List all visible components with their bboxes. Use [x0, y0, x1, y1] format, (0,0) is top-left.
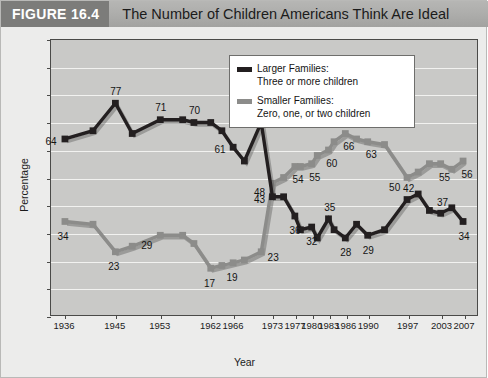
x-tick-label: 1973 [262, 320, 283, 331]
data-point-label: 29 [363, 244, 374, 255]
data-point-label: 23 [108, 261, 119, 272]
y-tick-mark [47, 317, 51, 318]
data-point-marker [207, 265, 214, 272]
data-point-marker [179, 116, 186, 123]
data-point-label: 70 [189, 105, 200, 116]
data-point-marker [342, 235, 349, 242]
x-tick-mark [442, 315, 443, 319]
data-point-label: 35 [324, 202, 335, 213]
data-point-marker [191, 240, 198, 247]
data-point-label: 77 [110, 85, 121, 96]
data-point-label: 50 [389, 181, 400, 192]
data-point-marker [269, 193, 276, 200]
data-point-label: 28 [340, 247, 351, 258]
data-point-marker [314, 152, 321, 159]
data-point-marker [90, 221, 97, 228]
figure-header: FIGURE 16.4 The Number of Children Ameri… [1, 1, 488, 27]
figure-number-tag: FIGURE 16.4 [1, 1, 109, 27]
data-point-marker [112, 100, 119, 107]
data-point-marker [62, 136, 69, 143]
y-axis-label: Percentage [18, 140, 30, 230]
data-point-label: 60 [326, 157, 337, 168]
data-point-marker [437, 160, 444, 167]
x-tick-mark [313, 315, 314, 319]
data-point-marker [364, 138, 371, 145]
data-point-marker [62, 218, 69, 225]
x-tick-mark [409, 315, 410, 319]
x-tick-label: 2007 [453, 320, 474, 331]
data-point-label: 34 [57, 230, 68, 241]
x-tick-mark [234, 315, 235, 319]
x-tick-label: 2003 [431, 320, 452, 331]
x-tick-mark [273, 315, 274, 319]
data-point-label: 66 [343, 141, 354, 152]
data-point-marker [325, 147, 332, 154]
data-point-marker [129, 130, 136, 137]
data-point-label: 55 [439, 171, 450, 182]
data-point-label: 36 [289, 225, 300, 236]
data-point-marker [404, 174, 411, 181]
x-tick-label: 1936 [53, 320, 74, 331]
x-tick-label: 1945 [104, 320, 125, 331]
data-point-label: 56 [461, 168, 472, 179]
data-point-label: 61 [214, 144, 225, 155]
legend-item-smaller-families: Smaller Families: Zero, one, or two chil… [237, 95, 406, 120]
chart-body: Percentage 0102030405060708090100 647771… [1, 27, 488, 378]
data-point-marker [191, 119, 198, 126]
x-tick-mark [211, 315, 212, 319]
data-point-label: 29 [141, 239, 152, 250]
data-point-marker [230, 259, 237, 266]
data-point-marker [325, 215, 332, 222]
legend-sublabel-larger-families: Three or more children [257, 76, 358, 89]
data-point-marker [258, 248, 265, 255]
data-point-marker [112, 248, 119, 255]
data-point-marker [342, 130, 349, 137]
data-point-marker [207, 119, 214, 126]
data-point-label: 71 [155, 102, 166, 113]
data-point-marker [219, 262, 226, 269]
data-point-label: 63 [366, 149, 377, 160]
x-tick-mark [369, 315, 370, 319]
data-point-label: 55 [309, 171, 320, 182]
data-point-label: 48 [254, 187, 265, 198]
figure-title: The Number of Children Americans Think A… [109, 6, 449, 22]
x-tick-mark [296, 315, 297, 319]
data-point-marker [381, 141, 388, 148]
chart-legend: Larger Families: Three or more children … [229, 55, 415, 128]
x-tick-mark [116, 315, 117, 319]
data-point-marker [381, 226, 388, 233]
data-point-label: 37 [437, 196, 448, 207]
data-point-marker [280, 174, 287, 181]
data-point-marker [308, 224, 315, 231]
x-tick-label: 1966 [222, 320, 243, 331]
data-point-marker [241, 158, 248, 165]
legend-swatch-larger-families [237, 67, 252, 72]
x-tick-mark [65, 315, 66, 319]
x-tick-mark [330, 315, 331, 319]
data-point-marker [297, 163, 304, 170]
data-point-marker [179, 232, 186, 239]
x-tick-mark [161, 315, 162, 319]
x-axis-label: Year [1, 356, 488, 368]
data-point-label: 17 [204, 277, 215, 288]
x-tick-label: 1962 [200, 320, 221, 331]
data-point-label: 23 [268, 252, 279, 263]
data-point-label: 54 [292, 174, 303, 185]
data-point-label: 64 [45, 135, 56, 146]
data-point-marker [157, 116, 164, 123]
data-point-marker [331, 138, 338, 145]
x-tick-mark [465, 315, 466, 319]
data-point-marker [460, 158, 467, 165]
data-point-marker [426, 160, 433, 167]
data-point-marker [415, 169, 422, 176]
plot-area: 0102030405060708090100 64777170617043363… [50, 39, 478, 316]
x-tick-label: 1997 [397, 320, 418, 331]
data-point-marker [415, 191, 422, 198]
legend-swatch-smaller-families [237, 99, 252, 104]
data-point-marker [129, 243, 136, 250]
data-point-marker [241, 257, 248, 264]
legend-item-larger-families: Larger Families: Three or more children [237, 63, 406, 88]
x-tick-mark [347, 315, 348, 319]
data-point-label: 32 [306, 236, 317, 247]
